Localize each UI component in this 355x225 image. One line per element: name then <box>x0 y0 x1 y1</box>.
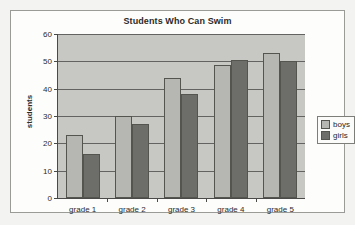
bar-boys <box>263 53 280 198</box>
y-axis-tick-label: 20 <box>43 139 52 148</box>
x-axis-tick-label: grade 3 <box>168 205 195 214</box>
bar-girls <box>231 60 248 198</box>
y-axis-tick-label: 40 <box>43 84 52 93</box>
chart-title: Students Who Can Swim <box>11 16 344 26</box>
bar-girls <box>83 154 100 198</box>
x-axis-tick <box>256 198 257 202</box>
legend-item-boys: boys <box>321 120 350 129</box>
bar-boys <box>66 135 83 198</box>
bar-group <box>58 34 107 198</box>
y-axis-tick-label: 60 <box>43 30 52 39</box>
bar-group <box>157 34 206 198</box>
bar-boys <box>115 116 132 198</box>
x-axis-tick <box>206 198 207 202</box>
x-axis-tick-label: grade 2 <box>119 205 146 214</box>
y-axis-title: students <box>25 82 34 142</box>
legend-label-girls: girls <box>333 131 348 140</box>
bar-girls <box>280 61 297 198</box>
bar-group <box>206 34 255 198</box>
chart-screenshot: Students Who Can Swim students 010203040… <box>0 0 355 225</box>
legend-label-boys: boys <box>333 120 350 129</box>
y-axis-tick-label: 30 <box>43 112 52 121</box>
legend-swatch-boys-icon <box>321 120 330 129</box>
bar-boys <box>164 78 181 198</box>
x-axis-tick-label: grade 1 <box>69 205 96 214</box>
y-axis-tick-label: 10 <box>43 166 52 175</box>
chart-frame: Students Who Can Swim students 010203040… <box>10 10 345 213</box>
legend-swatch-girls-icon <box>321 131 330 140</box>
chart-legend: boys girls <box>317 116 355 144</box>
y-axis-tick <box>54 198 58 199</box>
x-axis-tick <box>107 198 108 202</box>
legend-item-girls: girls <box>321 131 350 140</box>
bar-group <box>256 34 305 198</box>
y-axis-tick-label: 50 <box>43 57 52 66</box>
bar-girls <box>181 94 198 198</box>
y-axis-tick-label: 0 <box>48 194 52 203</box>
bar-girls <box>132 124 149 198</box>
bar-boys <box>214 65 231 198</box>
bar-group <box>107 34 156 198</box>
x-axis-tick <box>157 198 158 202</box>
x-axis-tick-label: grade 4 <box>217 205 244 214</box>
x-axis-tick-label: grade 5 <box>267 205 294 214</box>
plot-area: 0102030405060grade 1grade 2grade 3grade … <box>57 34 305 199</box>
